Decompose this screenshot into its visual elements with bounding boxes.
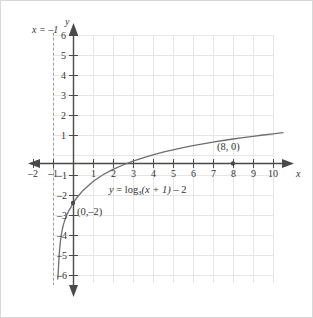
x-tick-label-8: 8 [231,169,236,179]
asymptote-label-text: x = –1 [32,24,58,35]
equation-constant: – 2 [173,184,186,195]
x-tick-label--2: –2 [28,169,38,179]
x-tick-label-3: 3 [131,169,136,179]
asymptote-label: x = –1 [32,25,58,35]
y-tick-label-3: 3 [61,91,66,101]
y-tick-label-2: 2 [61,111,66,121]
x-axis [28,159,294,168]
x-tick-label-9: 9 [251,169,256,179]
y-tick-label--5: –5 [57,251,67,261]
y-tick-label-5: 5 [61,51,66,61]
grid-lines [53,35,274,283]
point-label-0-neg2: (0,–2) [77,207,102,218]
y-tick-label--6: –6 [57,271,67,281]
equation-label: y = log3(x + 1) – 2 [109,185,187,196]
graph-canvas [1,1,313,318]
point-label-8-0: (8, 0) [217,142,240,153]
x-tick-label-2: 2 [111,169,116,179]
equation-argument: (x + 1) [142,184,171,195]
x-axis-name: x [296,169,300,179]
y-axis [69,23,78,297]
y-tick-label-6: 6 [61,31,66,41]
y-tick-label-4: 4 [61,71,66,81]
equation-log: log [125,184,138,195]
y-tick-label-1: 1 [61,131,66,141]
x-tick-label-4: 4 [151,169,156,179]
y-tick-label--3: –3 [57,211,67,221]
x-tick-label-7: 7 [211,169,216,179]
x-tick-label-10: 10 [268,169,278,179]
figure-container: –2 –1 1 2 3 4 5 6 7 8 9 10 6 5 4 3 2 1 –… [0,0,313,318]
point-marker-0-neg2 [71,201,75,205]
x-tick-label-6: 6 [191,169,196,179]
point-marker-8-0 [231,161,235,165]
x-tick-label-5: 5 [171,169,176,179]
y-tick-label--1: –1 [57,171,67,181]
y-tick-label--4: –4 [57,231,67,241]
y-axis-name: y [65,17,69,27]
y-tick-label--2: –2 [57,191,67,201]
x-tick-label-1: 1 [91,169,96,179]
